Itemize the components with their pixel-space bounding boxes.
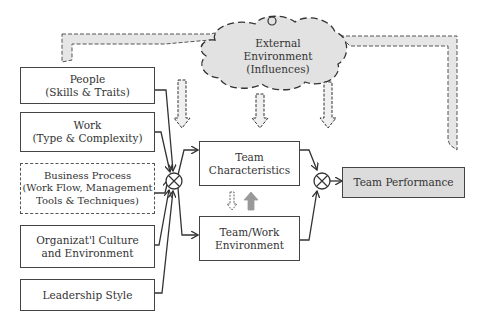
input-business-process-line2: (Work Flow, Management — [22, 182, 152, 195]
team-work-environment-line2: Environment — [215, 239, 284, 252]
input-leadership-box: Leadership Style — [20, 279, 155, 311]
team-characteristics-box: Team Characteristics — [199, 141, 300, 186]
input-culture-box: Organizat'l Culture and Environment — [20, 225, 155, 268]
team-performance-box: Team Performance — [342, 167, 465, 198]
team-characteristics-line1: Team — [235, 151, 264, 164]
external-line2: Environment — [228, 50, 328, 63]
input-culture-title: Organizat'l Culture — [36, 234, 139, 247]
interaction-arrows — [227, 192, 258, 210]
team-work-environment-line1: Team/Work — [220, 226, 280, 239]
external-line3: (Influences) — [228, 63, 328, 76]
input-work-box: Work (Type & Complexity) — [20, 112, 155, 152]
input-business-process-box: Business Process (Work Flow, Management … — [20, 163, 155, 214]
summing-junction-inputs — [166, 173, 182, 189]
input-people-subtitle: (Skills & Traits) — [45, 86, 129, 99]
input-work-title: Work — [74, 119, 102, 132]
summing-junction-output — [314, 173, 330, 189]
external-environment-label: External Environment (Influences) — [228, 37, 328, 76]
input-business-process-title: Business Process — [44, 170, 131, 183]
input-people-box: People (Skills & Traits) — [20, 67, 155, 104]
input-business-process-line3: Tools & Techniques) — [36, 195, 139, 208]
team-performance-label: Team Performance — [353, 176, 453, 189]
external-line1: External — [228, 37, 328, 50]
input-people-title: People — [70, 73, 105, 86]
team-characteristics-line2: Characteristics — [209, 164, 290, 177]
input-work-subtitle: (Type & Complexity) — [32, 132, 142, 145]
team-work-environment-box: Team/Work Environment — [199, 216, 300, 261]
input-culture-subtitle: and Environment — [41, 247, 133, 260]
input-leadership-title: Leadership Style — [43, 289, 133, 302]
